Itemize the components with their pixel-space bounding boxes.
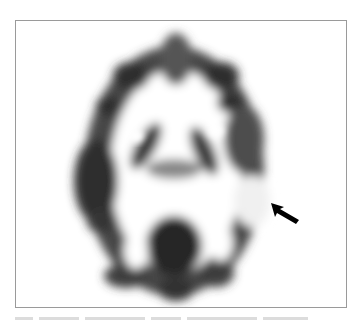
pet-scan-figure xyxy=(15,20,347,308)
brain-pet-image xyxy=(16,21,346,307)
cropped-caption xyxy=(15,314,345,322)
arrow-annotation-icon xyxy=(271,203,299,224)
